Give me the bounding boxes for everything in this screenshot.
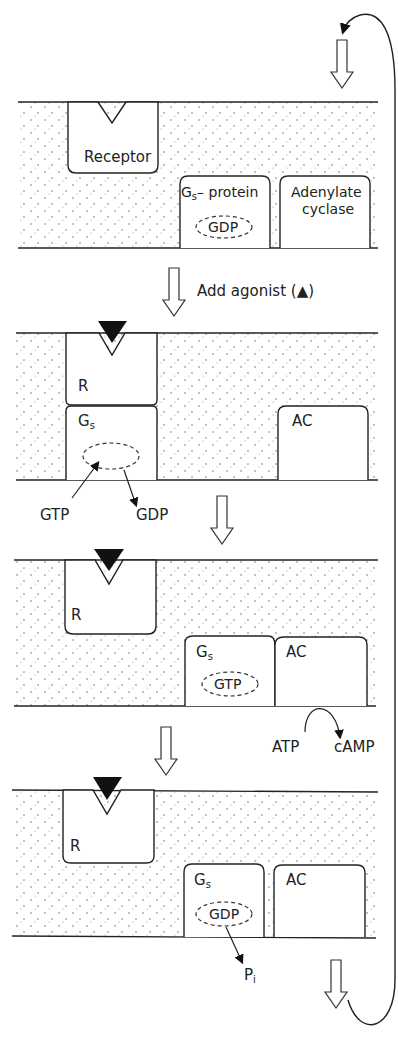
membrane-panel-2 [16, 321, 378, 505]
gs-sub: s [206, 879, 211, 890]
gs-label-2: Gs [78, 414, 95, 431]
receptor-label-2: R [78, 379, 88, 394]
ac-label-2: AC [292, 414, 312, 429]
gdp-out-label: GDP [136, 508, 168, 523]
receptor-label-3: R [71, 608, 81, 623]
nucleotide-label-4: GDP [209, 907, 239, 921]
hollow-arrow-3 [211, 496, 233, 544]
pi-p: P [244, 966, 253, 984]
atp-label: ATP [272, 740, 299, 755]
agonist-symbol-icon: ▲ [297, 282, 309, 300]
nucleotide-label-3: GTP [214, 677, 241, 691]
ac-label-3: AC [286, 645, 306, 660]
camp-label: cAMP [334, 740, 375, 755]
gs-label-4: Gs [194, 873, 211, 890]
add-agonist-close: ) [308, 282, 314, 300]
hollow-arrow-4 [155, 727, 177, 775]
ac-label-4: AC [286, 873, 306, 888]
gs-sub: s [208, 651, 213, 662]
add-agonist-text: Add agonist ( [197, 282, 297, 300]
membrane-panel-1 [18, 102, 378, 248]
gs-g: G [194, 871, 206, 889]
gtp-in-label: GTP [40, 508, 69, 523]
ac-label-1a: Adenylate [291, 185, 362, 199]
receptor-label-4: R [70, 839, 80, 854]
gs-g: G [196, 643, 208, 661]
hollow-arrow-2 [163, 268, 185, 316]
gs-sub: s [90, 420, 95, 431]
pi-sub: i [253, 974, 256, 985]
gs-g: G [78, 412, 90, 430]
add-agonist-label: Add agonist (▲) [197, 284, 314, 299]
gs-label-3: Gs [196, 645, 213, 662]
membrane-panel-4 [12, 777, 378, 962]
gs-protein-label-1: Gs– protein [181, 185, 258, 202]
hollow-arrow-1 [331, 40, 353, 88]
gs-suffix: – protein [197, 184, 258, 200]
receptor-label-1: Receptor [84, 150, 151, 165]
gs-g: G [181, 184, 192, 200]
pi-label: Pi [244, 968, 256, 985]
nucleotide-label-1: GDP [208, 220, 238, 234]
hollow-arrow-5 [325, 960, 347, 1008]
ac-label-1b: cyclase [302, 202, 354, 216]
